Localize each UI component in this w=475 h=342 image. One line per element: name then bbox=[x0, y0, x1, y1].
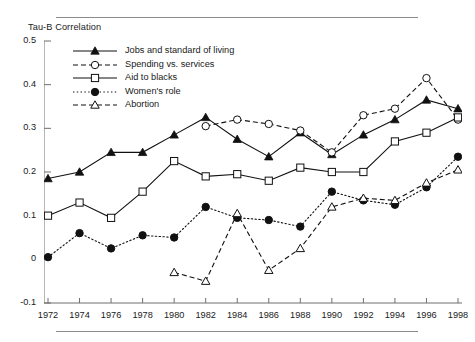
data-point-marker bbox=[296, 244, 304, 251]
x-tick-label: 1998 bbox=[441, 310, 475, 320]
x-tick-label: 1984 bbox=[220, 310, 254, 320]
x-tick-label: 1978 bbox=[126, 310, 160, 320]
data-point-marker bbox=[202, 173, 209, 180]
series-line bbox=[174, 170, 458, 281]
data-point-marker bbox=[44, 253, 51, 260]
data-point-marker bbox=[359, 131, 367, 138]
x-tick-label: 1994 bbox=[378, 310, 412, 320]
plot-area bbox=[44, 38, 462, 306]
data-point-marker bbox=[76, 229, 83, 236]
data-point-marker bbox=[360, 168, 367, 175]
x-tick-label: 1974 bbox=[63, 310, 97, 320]
data-point-marker bbox=[139, 232, 146, 239]
data-point-marker bbox=[265, 120, 272, 127]
data-point-marker bbox=[234, 171, 241, 178]
y-tick-label: 0.5 bbox=[10, 35, 36, 45]
data-point-marker bbox=[297, 223, 304, 230]
data-point-marker bbox=[107, 214, 114, 221]
data-point-marker bbox=[202, 203, 209, 210]
data-point-marker bbox=[170, 234, 177, 241]
y-tick-label: 0.4 bbox=[10, 79, 36, 89]
data-point-marker bbox=[201, 277, 209, 284]
data-point-marker bbox=[422, 179, 430, 186]
x-tick-label: 1992 bbox=[346, 310, 380, 320]
data-point-marker bbox=[265, 177, 272, 184]
data-point-marker bbox=[139, 188, 146, 195]
series-line bbox=[206, 78, 458, 152]
data-point-marker bbox=[328, 149, 335, 156]
data-point-marker bbox=[202, 122, 209, 129]
x-tick-label: 1972 bbox=[31, 310, 65, 320]
chart-svg bbox=[44, 38, 462, 306]
data-point-marker bbox=[454, 166, 462, 173]
data-point-marker bbox=[170, 131, 178, 138]
data-point-marker bbox=[297, 164, 304, 171]
y-tick-label: 0.1 bbox=[10, 210, 36, 220]
data-point-marker bbox=[423, 74, 430, 81]
data-point-marker bbox=[391, 115, 399, 122]
data-point-marker bbox=[391, 138, 398, 145]
data-point-marker bbox=[423, 129, 430, 136]
x-tick-label: 1980 bbox=[157, 310, 191, 320]
bottom-rule bbox=[56, 331, 418, 332]
data-point-marker bbox=[233, 209, 241, 216]
x-tick-label: 1982 bbox=[189, 310, 223, 320]
data-point-marker bbox=[454, 114, 461, 121]
data-point-marker bbox=[201, 113, 209, 120]
figure-container: Tau-B Correlation -0.100.10.20.30.40.5 1… bbox=[0, 0, 475, 342]
data-point-marker bbox=[265, 153, 273, 160]
data-point-marker bbox=[328, 168, 335, 175]
data-point-marker bbox=[76, 199, 83, 206]
top-rule bbox=[56, 17, 418, 18]
x-tick-label: 1990 bbox=[315, 310, 349, 320]
data-point-marker bbox=[265, 266, 273, 273]
x-tick-label: 1996 bbox=[409, 310, 443, 320]
y-axis-title: Tau-B Correlation bbox=[28, 22, 101, 32]
data-point-marker bbox=[75, 168, 83, 175]
y-tick-label: 0.2 bbox=[10, 166, 36, 176]
data-point-marker bbox=[297, 127, 304, 134]
data-point-marker bbox=[360, 112, 367, 119]
data-point-marker bbox=[422, 96, 430, 103]
x-tick-label: 1976 bbox=[94, 310, 128, 320]
data-point-marker bbox=[170, 268, 178, 275]
x-tick-label: 1988 bbox=[283, 310, 317, 320]
data-point-marker bbox=[328, 188, 335, 195]
data-point-marker bbox=[234, 116, 241, 123]
y-tick-label: 0 bbox=[10, 253, 36, 263]
data-point-marker bbox=[44, 212, 51, 219]
data-point-marker bbox=[391, 105, 398, 112]
data-point-marker bbox=[171, 157, 178, 164]
data-point-marker bbox=[233, 135, 241, 142]
x-tick-label: 1986 bbox=[252, 310, 286, 320]
data-point-marker bbox=[107, 245, 114, 252]
y-tick-label: -0.1 bbox=[10, 297, 36, 307]
data-point-marker bbox=[265, 216, 272, 223]
data-point-marker bbox=[454, 153, 461, 160]
y-tick-label: 0.3 bbox=[10, 122, 36, 132]
